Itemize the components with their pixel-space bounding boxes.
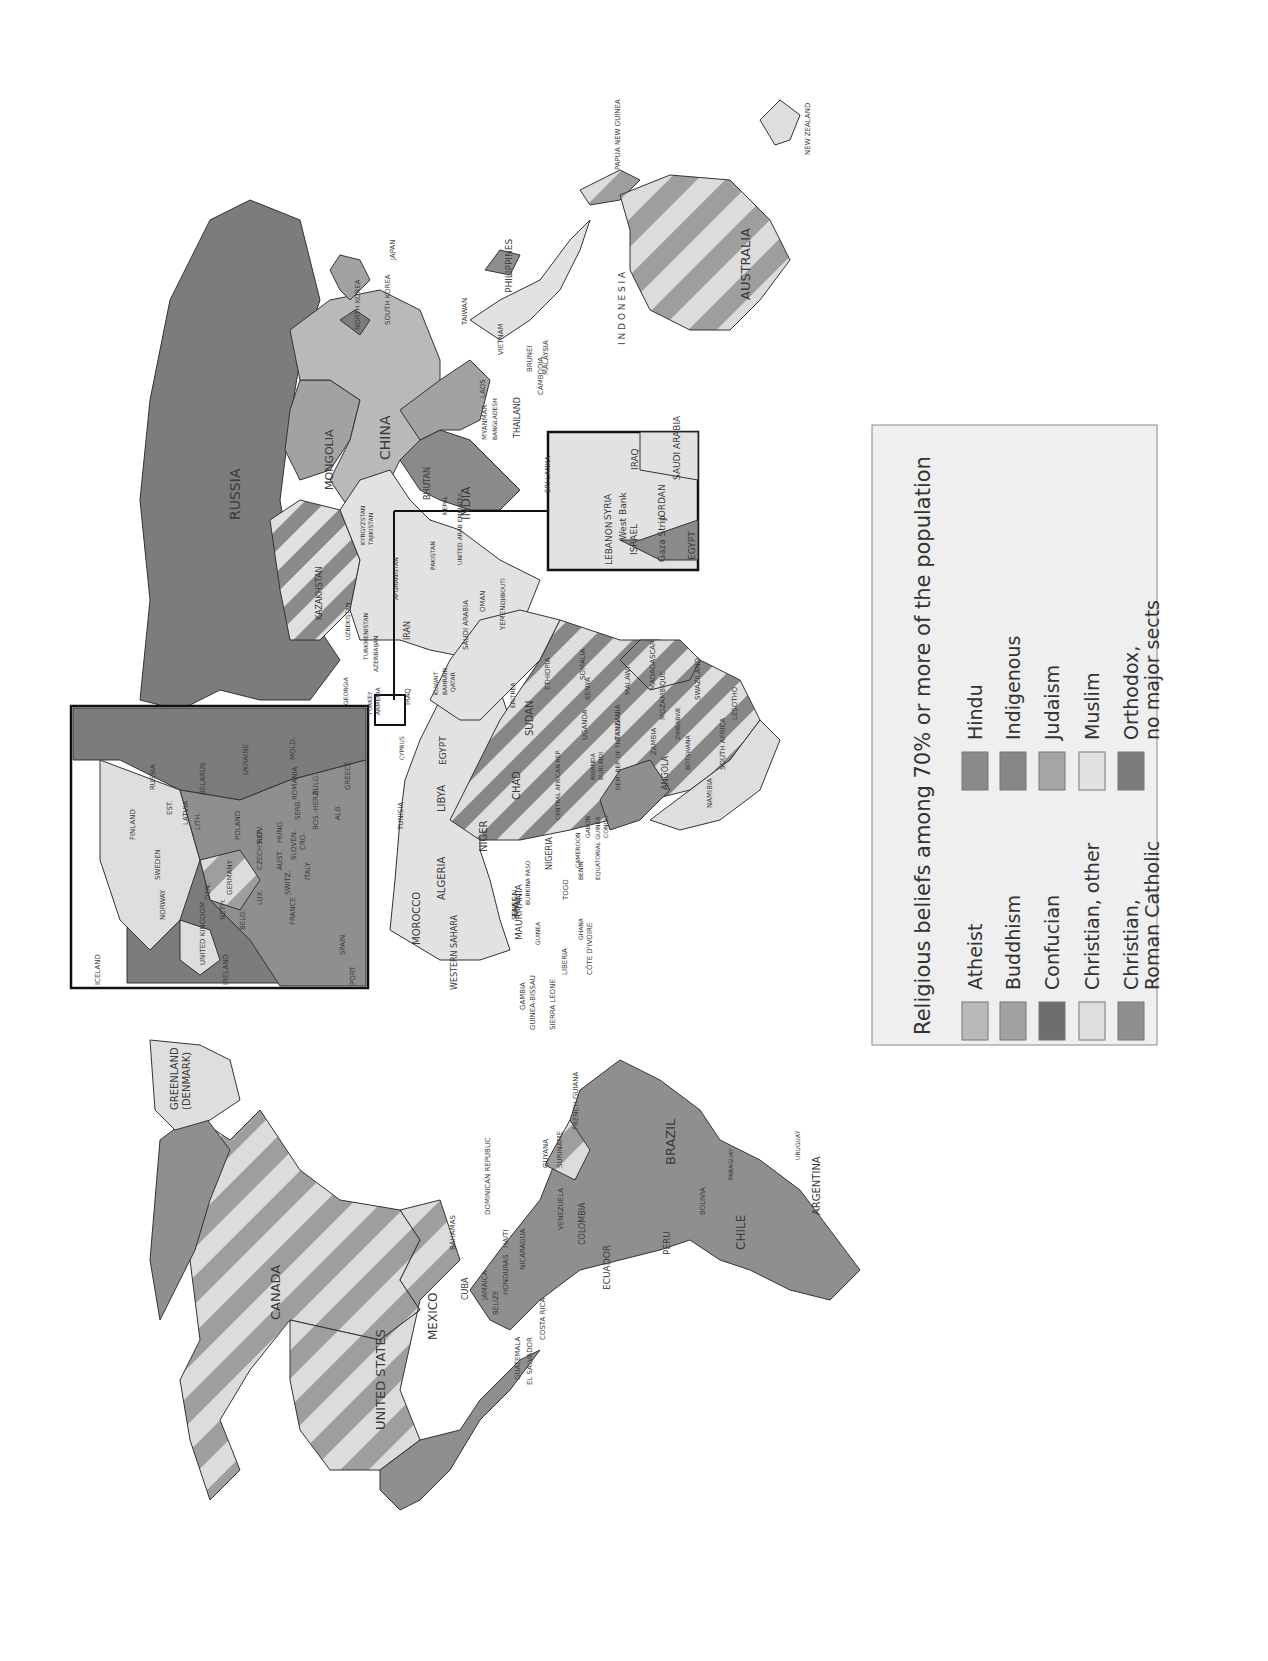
label-eu-austria: AUST. (276, 850, 284, 870)
label-afghanistan: AFGHANISTAN (392, 557, 399, 600)
label-ghana: GHANA (577, 917, 584, 940)
legend: Religious beliefs among 70% or more of t… (872, 425, 1163, 1045)
label-eu-denmark: DEN. (204, 883, 212, 900)
label-eu-albania: ALB. (334, 804, 342, 820)
label-ethiopia: ETHIOPIA (544, 657, 552, 690)
label-suriname: SURINAME (556, 1131, 564, 1168)
label-brazil: BRAZIL (663, 1118, 678, 1165)
label-eu-bulgaria: BULG. (312, 774, 320, 795)
label-gabon: GABON (584, 816, 591, 838)
label-philippines: PHILIPPINES (504, 239, 514, 293)
label-eu-iceland: ICELAND (94, 954, 102, 985)
legend-label-buddhism: Buddhism (1002, 895, 1024, 990)
label-eu-lithuania: LITH. (194, 812, 202, 830)
label-eritrea: ERITREA (509, 682, 516, 708)
label-somalia: SOMALIA (579, 648, 587, 680)
label-eu-belarus: BELARUS (199, 762, 207, 795)
label-honduras: HONDURAS (502, 1254, 510, 1295)
label-libya: LIBYA (436, 785, 447, 812)
label-western-sahara: WESTERN SAHARA (450, 915, 459, 990)
label-qatar: QATAR (449, 672, 456, 692)
label-mongolia: MONGOLIA (323, 429, 336, 490)
label-nepal: NEPAL (441, 495, 448, 515)
legend-swatch-orthodox (1118, 752, 1144, 790)
label-mexico: MEXICO (426, 1292, 440, 1340)
label-peru: PERU (662, 1231, 672, 1255)
label-taiwan: TAIWAN (461, 298, 469, 326)
label-me-gaza: Gaza Strip (657, 515, 667, 562)
label-malawi: MALAWI (624, 667, 632, 695)
label-kenya: KENYA (584, 677, 592, 700)
label-rwanda: RWANDA (589, 752, 596, 780)
region-australia (620, 175, 790, 330)
label-armenia: ARMENIA (374, 687, 381, 715)
label-vietnam: VIETNAM (497, 323, 505, 355)
label-senegal: SENEGAL (511, 887, 519, 920)
label-zimbabwe: ZIMBABWE (674, 707, 681, 740)
legend-swatch-indigenous (1000, 752, 1026, 790)
label-kyrgyzstan: KYRGYZSTAN (359, 506, 366, 545)
label-bangladesh: BANGLADESH (491, 398, 498, 440)
label-tajikistan: TAJIKISTAN (367, 513, 375, 546)
label-uzbekistan: UZBEKISTAN (344, 602, 351, 640)
label-ecuador: ECUADOR (602, 1245, 612, 1290)
label-guatemala: GUATEMALA (514, 1337, 522, 1380)
legend-swatch-hindu (962, 752, 988, 790)
region-south-america (470, 1060, 860, 1330)
religion-world-map: CANADA UNITED STATES MEXICO GREENLAND (D… (0, 0, 1268, 1661)
label-dominican-republic: DOMINICAN REPUBLIC (484, 1137, 492, 1215)
label-eu-croatia: CRO. (299, 833, 307, 850)
label-myanmar: MYANMAR (481, 404, 489, 440)
label-swaziland: SWAZILAND (694, 658, 702, 700)
legend-label-indigenous: Indigenous (1002, 636, 1024, 740)
label-belize: BELIZE (492, 1291, 500, 1315)
label-congo: CONGO (602, 815, 609, 838)
label-bahrain: BAHRAIN (441, 668, 448, 695)
label-sri-lanka: SRI LANKA (544, 456, 552, 493)
label-eu-serbia: SERB. (294, 799, 302, 820)
label-eu-hungary: HUNG. (276, 820, 284, 843)
label-togo: TOGO (562, 879, 570, 901)
label-botswana: BOTSWANA (684, 735, 691, 770)
label-djibouti: DJIBOUTI (499, 578, 507, 605)
label-burundi: BURUNDI (597, 752, 604, 780)
label-burkina-faso: BURKINA FASO (524, 860, 531, 905)
legend-label-orthodox: Orthodox, (1120, 646, 1142, 740)
label-eu-spain: SPAIN (339, 935, 347, 955)
label-haiti: HAITI (502, 1230, 510, 1248)
region-greenland (150, 1040, 240, 1130)
label-guinea-bissau: GUINEA-BISSAU (529, 975, 537, 1030)
label-argentina: ARGENTINA (811, 1156, 822, 1215)
label-eu-ukraine: UKRAINE (242, 744, 250, 775)
label-russia: RUSSIA (227, 468, 243, 520)
label-kazakhstan: KAZAKHSTAN (315, 566, 324, 620)
label-madagascar: MADAGASCAR (649, 640, 657, 690)
label-georgia: GEORGIA (342, 676, 349, 705)
label-eu-slovakia: SLOV. (256, 825, 264, 845)
label-cameroon: CAMEROON (574, 833, 581, 868)
label-eu-luxembourg: LUX. (256, 889, 264, 905)
label-iraq: IRAQ (404, 688, 412, 705)
label-australia: AUSTRALIA (738, 228, 753, 300)
label-eu-greece: GREECE (344, 762, 352, 790)
region-philippines (485, 250, 520, 275)
label-azerbaijan: AZERBAIJAN (372, 636, 380, 672)
legend-swatch-muslim (1079, 752, 1105, 790)
label-angola: ANGOLA (661, 755, 670, 790)
label-south-africa: SOUTH AFRICA (719, 718, 727, 770)
label-eu-sweden: SWEDEN (154, 849, 162, 880)
label-me-west-bank: West Bank (618, 492, 628, 540)
label-eu-moldova: MOLD. (289, 737, 297, 760)
label-eu-portugal: PORT. (349, 965, 357, 985)
legend-swatch-buddhism (1000, 1002, 1026, 1040)
label-mozambique: MOZAMBIQUE (659, 671, 667, 720)
label-eu-belgium: BELG. (239, 909, 247, 930)
label-kuwait: KUWAIT (432, 671, 439, 695)
label-me-syria: SYRIA (603, 493, 613, 520)
label-united-states: UNITED STATES (373, 1329, 388, 1430)
label-bolivia: BOLIVIA (699, 1187, 707, 1215)
label-eu-latvia: LATVIA (182, 801, 190, 825)
label-jamaica: JAMAICA (481, 1270, 489, 1301)
label-me-jordan: JORDAN (657, 484, 667, 521)
label-gambia: GAMBIA (519, 982, 527, 1010)
